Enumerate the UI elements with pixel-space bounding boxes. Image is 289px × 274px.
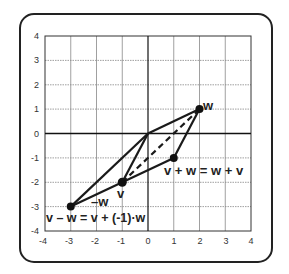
svg-text:-1: -1 (117, 236, 125, 246)
svg-text:3: 3 (223, 236, 228, 246)
svg-text:-4: -4 (31, 226, 39, 236)
y-tick-labels: 4 3 2 1 0 -1 -2 -3 -4 (31, 31, 39, 236)
svg-text:2: 2 (34, 80, 39, 90)
point-v-minus-w (67, 203, 75, 211)
svg-text:4: 4 (34, 31, 39, 41)
label-neg-w: –w (91, 194, 109, 209)
label-v-plus-w: v + w = w + v (164, 163, 244, 178)
svg-text:0: 0 (34, 129, 39, 139)
svg-text:1: 1 (171, 236, 176, 246)
svg-text:-3: -3 (31, 202, 39, 212)
svg-text:-3: -3 (65, 236, 73, 246)
svg-text:-1: -1 (31, 153, 39, 163)
svg-text:-2: -2 (31, 177, 39, 187)
svg-text:1: 1 (34, 104, 39, 114)
x-tick-labels: -4 -3 -2 -1 0 1 2 3 4 (39, 236, 254, 246)
svg-text:3: 3 (34, 55, 39, 65)
vector-diagram: 4 3 2 1 0 -1 -2 -3 -4 -4 -3 -2 -1 0 1 2 … (0, 0, 289, 274)
vector-v-minus-w (71, 134, 148, 207)
point-v-plus-w (170, 154, 178, 162)
svg-text:-4: -4 (39, 236, 47, 246)
label-v-minus-w: v – w = v + (-1)·w (46, 211, 146, 225)
label-w: w (202, 98, 214, 113)
svg-text:4: 4 (248, 236, 253, 246)
svg-text:2: 2 (197, 236, 202, 246)
svg-text:-2: -2 (91, 236, 99, 246)
svg-text:0: 0 (145, 236, 150, 246)
label-v: v (117, 186, 125, 201)
